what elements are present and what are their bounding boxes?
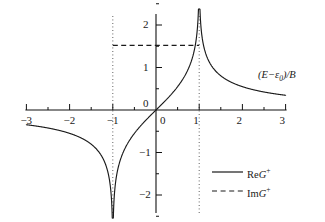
y-tick-label: −2	[139, 189, 151, 200]
x-tick-label: 3	[280, 115, 286, 126]
x-axis-title-minus: −	[268, 69, 275, 80]
legend-item-reg-plus: ReG+	[247, 167, 271, 180]
legend-item-img-plus: ImG+	[247, 186, 271, 199]
x-tick-label: 1	[193, 115, 199, 126]
figure: −3−2−10123 −2−1012 (E−ε0)/B ReG+ ImG+	[0, 0, 325, 222]
legend-img-superscript: +	[266, 185, 270, 194]
y-tick-label: 1	[143, 62, 149, 73]
y-tick-label: 2	[143, 19, 149, 30]
x-tick-label: 2	[236, 115, 242, 126]
reg-plus-left-branch	[26, 125, 112, 218]
x-tick-label: −2	[64, 115, 76, 126]
y-tick-label: −1	[139, 147, 151, 158]
legend-img-prefix: Im	[247, 188, 259, 199]
x-axis-title: (E−ε0)/B	[258, 70, 296, 83]
chart-canvas	[0, 0, 325, 222]
y-tick-label: 0	[143, 98, 149, 109]
legend-reg-prefix: Re	[247, 169, 259, 180]
x-tick-label: −3	[20, 115, 32, 126]
x-tick-label: 0	[160, 115, 166, 126]
legend-line-samples	[212, 172, 243, 191]
legend-reg-superscript: +	[266, 166, 270, 175]
x-tick-label: −1	[107, 115, 119, 126]
x-axis-title-B: B	[289, 69, 295, 80]
